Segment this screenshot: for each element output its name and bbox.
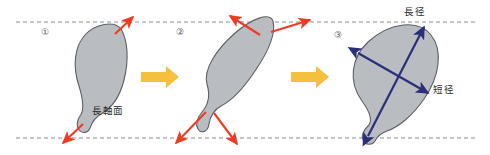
major-diameter-label: 長径: [404, 4, 425, 18]
panel-3-group: [353, 25, 438, 145]
rotation-arrow-2d: [214, 113, 237, 144]
minor-diameter-label: 短径: [433, 82, 454, 96]
diagram-svg: [0, 0, 490, 155]
long-axis-plane-label: 長軸面: [92, 103, 124, 117]
specimen-shape-3: [353, 25, 438, 145]
step-marker-2: ②: [176, 27, 184, 37]
specimen-shape-2: [197, 17, 274, 132]
step-marker-1: ①: [41, 27, 49, 37]
panel-2-group: [176, 16, 310, 144]
transition-arrow-1: [141, 66, 179, 88]
figure-canvas: ① 長軸面 ② ③ 長径 短径: [0, 0, 490, 155]
transition-arrow-2: [291, 66, 329, 88]
rotation-arrow-1b: [63, 124, 83, 143]
step-marker-3: ③: [334, 30, 342, 40]
panel-1-group: [63, 17, 133, 143]
